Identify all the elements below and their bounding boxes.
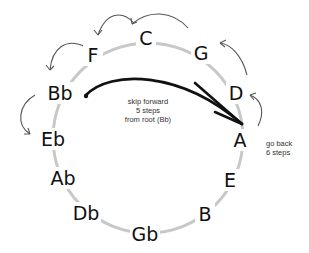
note-b: B [195,203,215,225]
hop-arrow-icon [250,95,262,126]
note-f: F [83,44,103,66]
note-gb: Gb [130,223,160,245]
note-labels: C G D A E B Gb Db [38,27,250,245]
annotation-line: go back [266,139,293,148]
hop-arrow-icon [132,14,188,28]
hop-arrow-icon [220,43,247,75]
note-label: G [194,42,209,64]
note-label: Ab [50,167,75,189]
note-c: C [136,27,156,49]
annotation-line: 5 steps [136,106,160,115]
note-e: E [220,169,240,191]
annotation-line: skip forward [128,97,168,106]
note-label: D [229,82,244,104]
go-back-annotation: go back 6 steps [266,139,293,157]
annotation-line: from root (Bb) [125,115,172,124]
annotation-line: 6 steps [266,148,290,157]
arrowhead-icon [94,30,102,35]
note-label: E [224,169,236,191]
hop-arrow-icon [98,15,134,35]
note-label: Eb [41,128,65,150]
note-bb: Bb [45,82,75,104]
hop-arrow-icon [50,43,84,70]
note-eb: Eb [38,128,68,150]
arrow-start-dot-icon [84,94,88,98]
note-label: Db [73,202,100,224]
skip-forward-annotation: skip forward 5 steps from root (Bb) [125,97,172,124]
note-label: Bb [47,82,72,104]
note-g: G [191,42,211,64]
circle-of-fifths-diagram: C G D A E B Gb Db [0,0,309,253]
note-label: Gb [132,223,159,245]
note-d: D [226,82,246,104]
note-db: Db [71,202,101,224]
note-label: F [88,44,99,66]
note-a: A [230,129,250,151]
note-label: A [234,129,247,151]
note-label: C [139,27,152,49]
note-label: B [198,203,211,225]
note-ab: Ab [48,167,78,189]
